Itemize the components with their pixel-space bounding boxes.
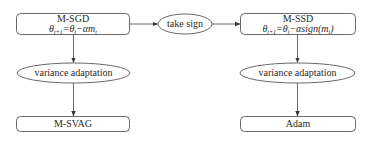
msgd-update-equation: θt+1=θt−αmt [16,23,130,38]
variance-left-label: variance adaptation [17,67,130,78]
adam-label: Adam [240,118,356,129]
msgd-eq-rhs-sub: t [95,29,97,35]
msvag-label: M-SVAG [16,118,130,129]
mssd-eq-lhs-sub: t+1 [267,29,276,35]
mssd-eq-rhs: −αsign(m [289,23,328,34]
msgd-eq-lhs-sub: t+1 [54,29,63,35]
msgd-eq-rhs: −αm [76,23,95,34]
mssd-update-equation: θt+1=θt−αsign(mt) [240,23,356,38]
mssd-eq-tail: ) [330,23,333,34]
mssd-eq-mid: =θ [276,23,288,34]
variance-right-label: variance adaptation [240,67,355,78]
msgd-eq-mid: =θ [63,23,75,34]
take-sign-label: take sign [158,18,212,29]
